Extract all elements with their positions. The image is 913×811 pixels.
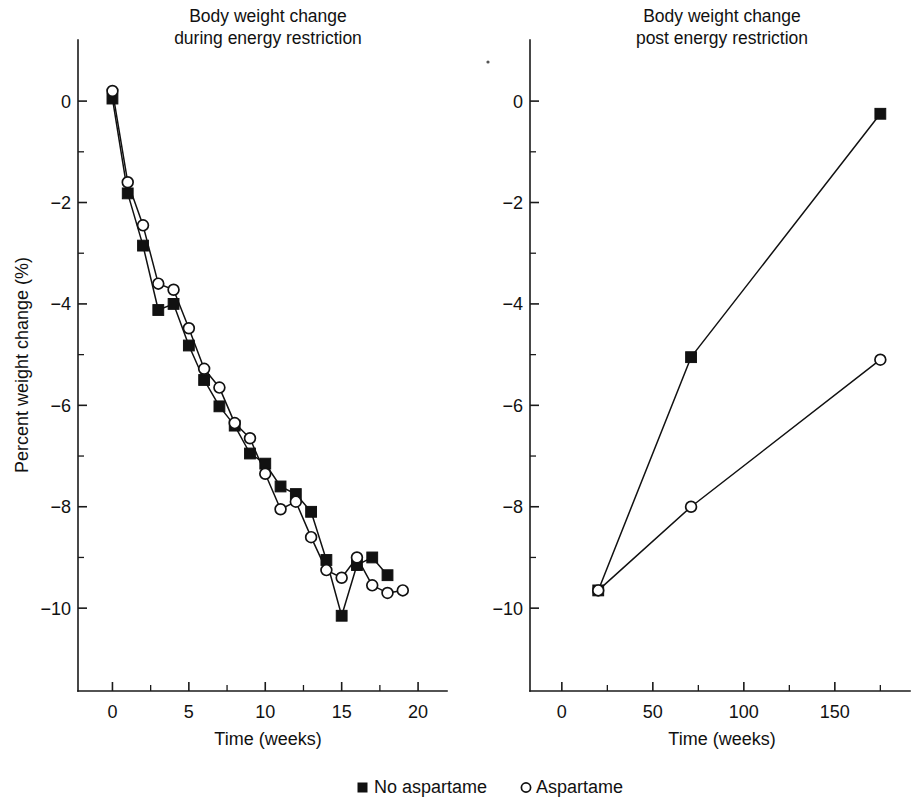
figure-root: Percent weight change (%) Body weight ch… <box>0 0 913 811</box>
x-tick-label: 15 <box>332 702 352 722</box>
data-point-aspartame <box>260 468 271 479</box>
panel-right-title-line2: post energy restriction <box>636 28 808 48</box>
data-point-aspartame <box>290 496 301 507</box>
y-tick-label: 0 <box>61 92 71 112</box>
data-point-aspartame <box>382 588 393 599</box>
legend-marker-aspartame <box>521 783 530 792</box>
legend-label-no-aspartame: No aspartame <box>374 777 487 797</box>
panel-left-title-line2: during energy restriction <box>174 28 362 48</box>
y-tick-label: −8 <box>50 497 71 517</box>
data-point-no-aspartame <box>306 506 317 517</box>
data-point-aspartame <box>245 433 256 444</box>
legend-label-aspartame: Aspartame <box>536 777 623 797</box>
data-point-no-aspartame <box>336 610 347 621</box>
data-point-no-aspartame <box>183 340 194 351</box>
data-point-no-aspartame <box>260 458 271 469</box>
data-point-aspartame <box>367 580 378 591</box>
panel-left-title-line1: Body weight change <box>189 6 347 26</box>
data-point-no-aspartame <box>138 240 149 251</box>
data-point-no-aspartame <box>875 108 886 119</box>
y-tick-label: −4 <box>50 294 71 314</box>
data-point-no-aspartame <box>122 188 133 199</box>
data-point-aspartame <box>352 552 363 563</box>
data-point-aspartame <box>153 278 164 289</box>
panel-right-title-line1: Body weight change <box>643 6 801 26</box>
data-point-aspartame <box>229 418 240 429</box>
y-tick-label: −6 <box>502 396 523 416</box>
scan-speck-artifact <box>486 60 489 63</box>
y-tick-label: −8 <box>502 497 523 517</box>
data-point-aspartame <box>122 177 133 188</box>
figure-background <box>0 0 913 811</box>
x-tick-label: 100 <box>729 702 759 722</box>
data-point-aspartame <box>336 572 347 583</box>
y-tick-label: −4 <box>502 294 523 314</box>
data-point-aspartame <box>199 363 210 374</box>
y-tick-label: −2 <box>502 193 523 213</box>
data-point-aspartame <box>183 323 194 334</box>
data-point-aspartame <box>168 284 179 295</box>
data-point-no-aspartame <box>686 352 697 363</box>
data-point-aspartame <box>593 585 604 596</box>
x-tick-label: 0 <box>107 702 117 722</box>
data-point-aspartame <box>875 354 886 365</box>
legend-marker-no-aspartame <box>358 783 367 792</box>
data-point-no-aspartame <box>168 299 179 310</box>
x-tick-label: 50 <box>643 702 663 722</box>
data-point-aspartame <box>306 532 317 543</box>
right-x-axis-title: Time (weeks) <box>668 729 775 749</box>
data-point-aspartame <box>321 565 332 576</box>
data-point-aspartame <box>275 504 286 515</box>
data-point-aspartame <box>107 86 118 97</box>
data-point-no-aspartame <box>321 555 332 566</box>
x-tick-label: 5 <box>184 702 194 722</box>
data-point-no-aspartame <box>153 305 164 316</box>
data-point-no-aspartame <box>275 481 286 492</box>
left-x-axis-title: Time (weeks) <box>214 729 321 749</box>
y-tick-label: −2 <box>50 193 71 213</box>
y-tick-label: −6 <box>50 396 71 416</box>
data-point-no-aspartame <box>367 552 378 563</box>
x-tick-label: 20 <box>408 702 428 722</box>
data-point-no-aspartame <box>245 448 256 459</box>
data-point-aspartame <box>138 220 149 231</box>
y-tick-label: −10 <box>492 599 523 619</box>
data-point-aspartame <box>397 585 408 596</box>
y-tick-label: −10 <box>40 599 71 619</box>
x-tick-label: 150 <box>820 702 850 722</box>
data-point-no-aspartame <box>214 401 225 412</box>
x-tick-label: 10 <box>255 702 275 722</box>
data-point-aspartame <box>686 501 697 512</box>
x-tick-label: 0 <box>557 702 567 722</box>
data-point-aspartame <box>214 382 225 393</box>
data-point-no-aspartame <box>199 375 210 386</box>
y-axis-title: Percent weight change (%) <box>12 257 32 473</box>
data-point-no-aspartame <box>382 570 393 581</box>
y-tick-label: 0 <box>513 92 523 112</box>
